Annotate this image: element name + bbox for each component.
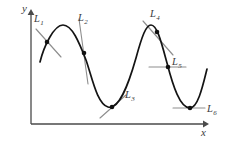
tangent-label-l5: L5 [172,57,181,68]
tangent-label-l4: L4 [150,9,159,20]
tangency-point-l5 [166,65,171,70]
tangent-label-l6: L6 [207,104,216,115]
tangent-line-figure: y x L1 L2 L3 L4 L5 L6 [0,0,231,149]
tangent-label-l1: L1 [34,14,43,25]
tangency-point-l1 [45,40,50,45]
tangency-points-group [45,30,193,111]
tangent-label-l2: L2 [78,13,87,24]
tangency-point-l6 [188,106,193,111]
tangent-label-l3: L3 [125,90,134,101]
x-axis-label: x [201,127,206,138]
tangency-point-l2 [82,51,87,56]
tangency-point-l3 [110,105,115,110]
y-axis-label: y [22,3,27,14]
tangency-point-l4 [155,30,160,35]
